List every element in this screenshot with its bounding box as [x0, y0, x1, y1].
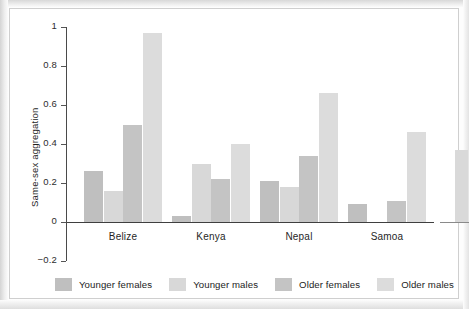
bar	[280, 187, 299, 222]
legend-item: Younger males	[169, 278, 258, 291]
legend-swatch-younger-females	[55, 278, 72, 291]
scanned-figure-page: Same-sex aggregation 10.80.60.40.20−0.2 …	[0, 0, 469, 309]
y-axis-label: Same-sex aggregation	[29, 107, 40, 207]
y-axis-tick-label: 0.2	[18, 176, 57, 187]
chart-legend: Younger femalesYounger malesOlder female…	[55, 274, 455, 294]
legend-swatch-younger-males	[169, 278, 186, 291]
bar	[211, 179, 230, 222]
y-axis-tick	[61, 261, 66, 262]
bar	[299, 156, 318, 222]
y-axis-line-lower	[66, 222, 67, 261]
legend-item: Older females	[275, 278, 360, 291]
y-axis-tick-label: 0.4	[18, 137, 57, 148]
x-axis-category-label: Belize	[83, 231, 163, 242]
bar	[231, 144, 250, 222]
bar	[260, 181, 279, 222]
legend-label: Younger females	[79, 279, 152, 290]
y-axis-tick-label: 0.8	[18, 59, 57, 70]
y-axis-tick-label: −0.2	[18, 254, 57, 265]
y-axis-tick-label: 1	[18, 20, 57, 31]
bar	[348, 204, 367, 222]
cropped-edge-bar-artifact	[455, 150, 468, 222]
bar	[387, 201, 406, 222]
y-axis-tick-label: 0	[18, 215, 57, 226]
legend-swatch-older-males	[377, 278, 394, 291]
legend-label: Older females	[299, 279, 360, 290]
bar	[407, 132, 426, 222]
x-axis-category-label: Samoa	[347, 231, 427, 242]
legend-swatch-older-females	[275, 278, 292, 291]
bar	[123, 125, 142, 223]
y-axis-tick-label: 0.6	[18, 98, 57, 109]
bar	[172, 216, 191, 222]
bar	[104, 191, 123, 222]
bars-layer	[66, 27, 434, 222]
bar	[192, 164, 211, 223]
legend-item: Younger females	[55, 278, 152, 291]
cropped-edge-rule-artifact	[440, 222, 469, 223]
bar-chart: Same-sex aggregation 10.80.60.40.20−0.2 …	[0, 0, 469, 309]
legend-item: Older males	[377, 278, 454, 291]
bar	[319, 93, 338, 222]
legend-label: Younger males	[193, 279, 258, 290]
x-axis-line	[66, 222, 434, 223]
bar	[84, 171, 103, 222]
x-axis-category-label: Nepal	[259, 231, 339, 242]
bar	[143, 33, 162, 222]
x-axis-category-label: Kenya	[171, 231, 251, 242]
legend-label: Older males	[401, 279, 454, 290]
